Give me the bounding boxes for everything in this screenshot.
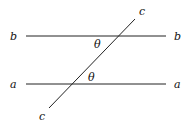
angle-theta-lower: θ	[88, 71, 95, 84]
label-c-top: c	[139, 5, 145, 18]
parallel-lines-diagram: b b a a c c θ θ	[0, 0, 192, 126]
label-c-bottom: c	[39, 110, 45, 123]
label-a-left: a	[10, 78, 17, 91]
angle-theta-upper: θ	[94, 38, 101, 51]
label-b-right: b	[174, 30, 181, 43]
label-a-right: a	[174, 78, 181, 91]
transversal-c	[49, 19, 135, 108]
label-b-left: b	[10, 30, 17, 43]
